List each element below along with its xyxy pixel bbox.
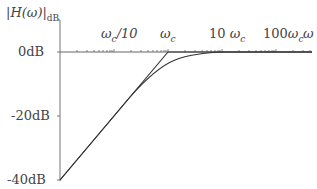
x-axis-title: ω bbox=[303, 26, 314, 41]
x-label-omega: ω bbox=[288, 26, 299, 41]
y-axis-title: |H(ω)|dB bbox=[6, 5, 59, 20]
y-label-0db: 0dB bbox=[18, 44, 44, 59]
x-label-100wc: 100ωc bbox=[263, 26, 303, 41]
x-label-omega: ω bbox=[230, 26, 241, 41]
x-label-10wc: 10 ωc bbox=[209, 26, 245, 41]
y-label-minus20db: -20dB bbox=[11, 108, 50, 123]
asymptote-line bbox=[60, 52, 312, 180]
y-axis-title-main: |H(ω)| bbox=[6, 5, 47, 20]
x-label-sub: c bbox=[112, 34, 117, 44]
x-label-prefix: 100 bbox=[263, 26, 288, 41]
x-label-sub: c bbox=[171, 34, 176, 44]
x-label-suffix: /10 bbox=[117, 26, 138, 41]
x-label-prefix: 10 bbox=[209, 26, 230, 41]
y-axis-title-sub: dB bbox=[47, 13, 59, 23]
x-label-wc: ωc bbox=[160, 26, 176, 41]
actual-response-curve bbox=[60, 52, 312, 180]
x-label-omega: ω bbox=[101, 26, 112, 41]
x-label-omega: ω bbox=[160, 26, 171, 41]
y-label-minus40db: -40dB bbox=[7, 172, 46, 187]
x-label-wc-over-10: ωc/10 bbox=[101, 26, 138, 41]
x-label-sub: c bbox=[240, 34, 245, 44]
